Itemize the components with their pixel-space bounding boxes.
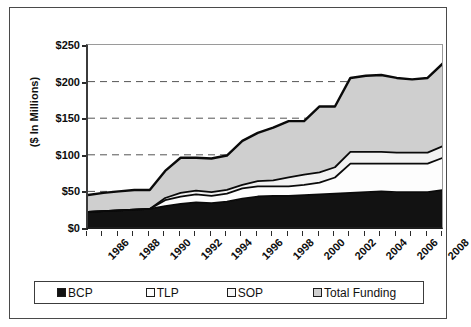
x-tick-mark — [333, 231, 334, 236]
chart-legend: BCP TLP SOP Total Funding — [34, 281, 424, 304]
x-tick-mark — [256, 231, 257, 236]
x-tick-mark — [117, 231, 118, 236]
stacked-area-plot — [88, 45, 443, 228]
y-axis-tick-labels: $250$200$150$100$50$0 — [8, 44, 80, 229]
x-tick-label: 1990 — [167, 236, 193, 262]
x-tick-label: 1994 — [229, 236, 255, 262]
x-tick-mark — [318, 231, 319, 236]
x-tick-mark — [426, 231, 427, 236]
x-tick-mark — [379, 231, 380, 236]
x-tick-label: 2006 — [414, 236, 440, 262]
y-tick-label: $250 — [8, 39, 80, 51]
legend-swatch-bcp — [57, 288, 66, 297]
x-tick-mark — [101, 231, 102, 236]
x-tick-mark — [410, 231, 411, 236]
legend-label-tlp: TLP — [157, 286, 179, 300]
legend-item-tlp[interactable]: TLP — [146, 286, 179, 300]
x-tick-mark — [179, 231, 180, 236]
plot-area — [86, 44, 443, 229]
x-tick-mark — [163, 231, 164, 236]
y-tick-label: $50 — [8, 185, 80, 197]
x-tick-mark — [441, 231, 442, 236]
x-tick-label: 1996 — [260, 236, 286, 262]
x-axis-tick-labels: 1986198819901992199419961998200020022004… — [86, 231, 443, 277]
legend-swatch-tlp — [146, 288, 155, 297]
x-tick-mark — [348, 231, 349, 236]
x-tick-mark — [194, 231, 195, 236]
legend-item-bcp[interactable]: BCP — [57, 286, 93, 300]
x-tick-mark — [364, 231, 365, 236]
legend-item-sop[interactable]: SOP — [227, 286, 263, 300]
legend-label-bcp: BCP — [68, 286, 93, 300]
legend-label-total-funding: Total Funding — [324, 286, 396, 300]
y-tick-label: $100 — [8, 149, 80, 161]
x-tick-mark — [395, 231, 396, 236]
x-tick-label: 2004 — [383, 236, 409, 262]
x-tick-mark — [225, 231, 226, 236]
x-tick-label: 1988 — [136, 236, 162, 262]
x-tick-mark — [86, 231, 87, 236]
x-tick-label: 1986 — [105, 236, 131, 262]
y-tick-label: $0 — [8, 222, 80, 234]
x-tick-label: 2002 — [352, 236, 378, 262]
x-tick-mark — [148, 231, 149, 236]
x-tick-label: 1998 — [290, 236, 316, 262]
y-tick-label: $200 — [8, 76, 80, 88]
x-tick-label: 2000 — [321, 236, 347, 262]
x-tick-label: 2008 — [445, 236, 471, 262]
plot-wrapper — [86, 44, 443, 229]
legend-swatch-total-funding — [313, 288, 322, 297]
x-tick-mark — [287, 231, 288, 236]
x-tick-mark — [132, 231, 133, 236]
legend-label-sop: SOP — [238, 286, 263, 300]
x-tick-label: 1992 — [198, 236, 224, 262]
y-tick-label: $150 — [8, 112, 80, 124]
x-tick-mark — [240, 231, 241, 236]
x-tick-mark — [271, 231, 272, 236]
legend-item-total-funding[interactable]: Total Funding — [313, 286, 396, 300]
x-tick-mark — [210, 231, 211, 236]
x-tick-mark — [302, 231, 303, 236]
legend-swatch-sop — [227, 288, 236, 297]
